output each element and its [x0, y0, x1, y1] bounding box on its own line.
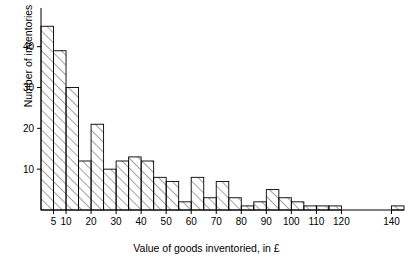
- histogram-bar: [129, 157, 142, 210]
- x-tick-label: 60: [186, 216, 198, 227]
- histogram-bar: [166, 181, 179, 210]
- histogram-bar: [54, 51, 67, 210]
- x-tick-labels: 5102030405060708090100110120140: [51, 216, 401, 227]
- histogram-chart: Number of inventories Value of goods inv…: [0, 0, 413, 263]
- x-tick-label: 110: [308, 216, 324, 227]
- y-tick-label: 10: [23, 164, 35, 175]
- histogram-bar: [316, 206, 329, 210]
- x-tick-label: 90: [261, 216, 273, 227]
- x-tick-label: 120: [333, 216, 350, 227]
- histogram-bar: [154, 177, 167, 210]
- y-tick-label: 20: [23, 123, 35, 134]
- histogram-bar: [304, 206, 317, 210]
- y-tick-label: 30: [23, 82, 35, 93]
- x-tick-label: 40: [136, 216, 148, 227]
- histogram-bar: [229, 198, 242, 210]
- plot-area: 5102030405060708090100110120140 10203040: [0, 0, 413, 263]
- histogram-bar: [79, 161, 92, 210]
- x-tick-label: 70: [211, 216, 223, 227]
- histogram-bar: [66, 88, 79, 211]
- x-tick-label: 50: [161, 216, 173, 227]
- histogram-bar: [279, 198, 292, 210]
- x-tick-label: 30: [111, 216, 123, 227]
- histogram-bar: [391, 206, 404, 210]
- histogram-bar: [254, 202, 267, 210]
- x-tick-label: 140: [383, 216, 400, 227]
- histogram-bar: [216, 181, 229, 210]
- histogram-bar: [179, 202, 192, 210]
- histogram-bar: [291, 202, 304, 210]
- x-tick-label: 5: [51, 216, 57, 227]
- y-tick-label: 40: [23, 41, 35, 52]
- histogram-bar: [241, 206, 254, 210]
- bars-group: [41, 26, 404, 210]
- histogram-bar: [266, 190, 279, 210]
- x-tick-label: 20: [86, 216, 98, 227]
- x-tick-label: 80: [236, 216, 248, 227]
- histogram-bar: [191, 177, 204, 210]
- x-tick-label: 10: [60, 216, 72, 227]
- x-tick-label: 100: [283, 216, 300, 227]
- histogram-bar: [104, 169, 117, 210]
- histogram-bar: [116, 161, 129, 210]
- histogram-bar: [141, 161, 154, 210]
- histogram-bar: [204, 198, 217, 210]
- histogram-bar: [329, 206, 342, 210]
- histogram-bar: [91, 124, 104, 210]
- histogram-bar: [41, 26, 54, 210]
- y-tick-labels: 10203040: [23, 41, 35, 175]
